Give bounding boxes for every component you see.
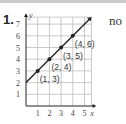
data-point	[47, 57, 51, 61]
data-point-label: (4, 6)	[75, 39, 95, 49]
y-tick-label: 5	[16, 44, 20, 53]
x-tick-label: 2	[47, 109, 51, 118]
y-tick-label: 4	[16, 55, 20, 64]
y-axis-arrow-icon	[24, 14, 28, 18]
data-point	[59, 46, 63, 50]
y-tick-label: 1	[16, 90, 20, 99]
x-axis-label: x	[89, 109, 94, 118]
x-tick-label: 5	[83, 109, 87, 118]
x-axis-arrow-icon	[93, 104, 97, 108]
y-tick-label: 6	[16, 32, 20, 41]
data-point-label: (1, 3)	[40, 74, 60, 84]
x-tick-label: 3	[59, 109, 63, 118]
y-axis-label: y	[28, 11, 33, 20]
data-point	[71, 34, 75, 38]
x-tick-label: 4	[71, 109, 75, 118]
data-point	[36, 69, 40, 73]
x-tick-label: 1	[36, 109, 40, 118]
y-tick-label: 3	[16, 67, 20, 76]
y-tick-label: 2	[16, 79, 20, 88]
coordinate-graph: 123451234567xy(1, 3)(2, 4)(3, 5)(4, 6)	[0, 0, 126, 124]
data-point-label: (2, 4)	[51, 62, 71, 72]
y-tick-label: 7	[16, 20, 20, 29]
data-point-label: (3, 5)	[63, 51, 83, 61]
